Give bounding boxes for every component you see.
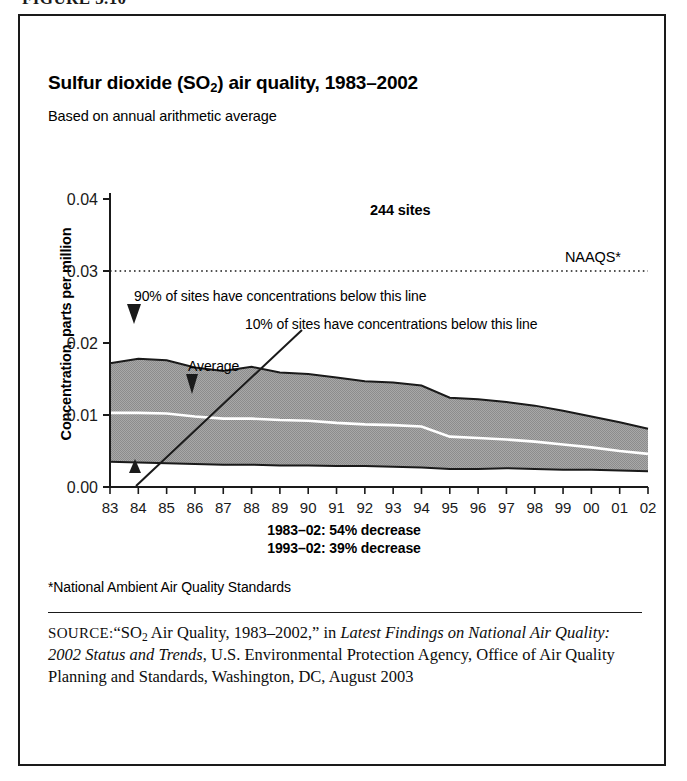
chart-axes: 0.000.010.020.030.0483848586878889909192…	[67, 191, 656, 516]
percentile-10-label: 10% of sites have concentrations below t…	[245, 316, 537, 332]
y-tick-label: 0.04	[67, 191, 98, 208]
decrease-summary-1993: 1993–02: 39% decrease	[20, 540, 668, 556]
decrease-summary-1983: 1983–02: 54% decrease	[20, 522, 668, 538]
source-quote-rest: Air Quality, 1983–2002,”	[148, 623, 320, 642]
x-tick-label: 84	[130, 499, 147, 516]
sites-count-label: 244 sites	[370, 202, 430, 218]
x-tick-label: 94	[413, 499, 430, 516]
chart-title-subscript: 2	[210, 80, 217, 95]
x-tick-label: 96	[470, 499, 487, 516]
x-tick-label: 86	[187, 499, 204, 516]
x-tick-label: 99	[555, 499, 572, 516]
x-tick-label: 91	[328, 499, 345, 516]
x-tick-label: 01	[611, 499, 628, 516]
x-tick-label: 98	[526, 499, 543, 516]
chart-title-prefix: Sulfur dioxide (SO	[48, 72, 210, 93]
x-tick-label: 89	[272, 499, 289, 516]
x-tick-label: 93	[385, 499, 402, 516]
x-tick-label: 87	[215, 499, 232, 516]
source-quote-open: “SO	[113, 623, 141, 642]
percentile-band	[110, 359, 648, 471]
chart-subtitle: Based on annual arithmetic average	[48, 108, 277, 124]
y-axis-title: Concentration, parts per million	[58, 224, 74, 444]
x-tick-label: 90	[300, 499, 317, 516]
callout-marker-90	[127, 304, 141, 324]
divider-rule	[48, 612, 642, 613]
x-tick-label: 88	[243, 499, 260, 516]
x-tick-label: 92	[356, 499, 373, 516]
callout-marker-10	[129, 459, 141, 473]
percentile-90-label: 90% of sites have concentrations below t…	[134, 288, 426, 304]
x-tick-label: 97	[498, 499, 515, 516]
chart-title: Sulfur dioxide (SO2) air quality, 1983–2…	[48, 72, 418, 94]
figure-box: Sulfur dioxide (SO2) air quality, 1983–2…	[18, 14, 666, 766]
figure-number: FIGURE 3.10	[22, 0, 127, 9]
average-label: Average	[188, 358, 239, 374]
x-tick-label: 95	[441, 499, 458, 516]
x-tick-label: 00	[583, 499, 600, 516]
y-tick-label: 0.00	[67, 479, 98, 496]
average-line	[110, 413, 648, 454]
source-citation: SOURCE:“SO2 Air Quality, 1983–2002,” in …	[48, 622, 644, 688]
callout-marker-average	[186, 374, 198, 394]
footnote-naaqs: *National Ambient Air Quality Standards	[48, 579, 291, 595]
chart-title-suffix: ) air quality, 1983–2002	[217, 72, 418, 93]
source-quote-subscript: 2	[142, 631, 148, 643]
source-connector: in	[319, 623, 340, 642]
x-tick-label: 02	[640, 499, 657, 516]
x-tick-label: 83	[102, 499, 119, 516]
source-label: SOURCE:	[48, 625, 113, 641]
percentile-10-line	[110, 462, 648, 471]
callout-leader-10	[136, 330, 302, 486]
x-tick-label: 85	[158, 499, 175, 516]
naaqs-label: NAAQS*	[565, 249, 621, 265]
